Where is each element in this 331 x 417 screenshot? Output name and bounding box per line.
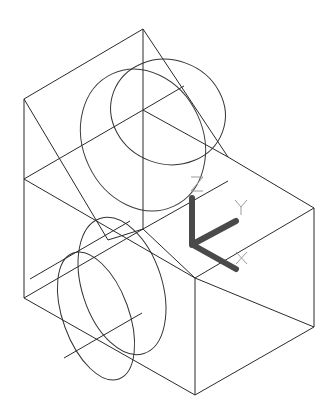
- wireframe-model: [0, 0, 331, 417]
- y-label: [235, 200, 247, 207]
- y-axis: [193, 221, 236, 244]
- ucs-icon: [191, 177, 247, 269]
- z-label: [191, 177, 203, 191]
- x-axis: [193, 245, 236, 269]
- top-cylinder: [58, 43, 241, 231]
- side-cylinder: [30, 206, 182, 390]
- cad-viewport[interactable]: [0, 0, 331, 417]
